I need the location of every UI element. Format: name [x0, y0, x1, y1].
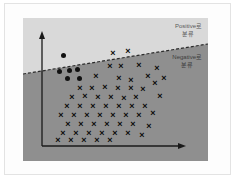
data-point-x: ×	[114, 84, 123, 93]
negative-label-line1: Negative로	[172, 54, 202, 60]
data-point-x: ×	[54, 136, 63, 145]
data-point-x: ×	[92, 72, 101, 81]
data-point-x: ×	[151, 79, 160, 88]
data-point-x: ×	[63, 102, 72, 111]
data-point-x: ×	[149, 109, 158, 118]
scatter-plot-area: ××××××××××××××××××××××××××××××××××××××××…	[23, 18, 208, 161]
data-point-x: ×	[115, 74, 124, 83]
figure-card: ××××××××××××××××××××××××××××××××××××××××…	[4, 3, 231, 175]
data-point-x: ×	[115, 102, 124, 111]
data-point-circle	[77, 76, 82, 81]
positive-label-line1: Positive로	[175, 23, 202, 29]
data-point-circle	[75, 67, 80, 72]
data-point-x: ×	[145, 122, 154, 131]
data-point-x: ×	[138, 131, 147, 140]
data-point-x: ×	[109, 49, 118, 58]
data-point-x: ×	[109, 111, 118, 120]
data-point-x: ×	[117, 62, 126, 71]
data-point-x: ×	[124, 47, 133, 56]
data-point-circle	[57, 69, 62, 74]
data-point-x: ×	[76, 102, 85, 111]
data-point-x: ×	[106, 62, 115, 71]
data-point-x: ×	[67, 136, 76, 145]
data-point-x: ×	[89, 102, 98, 111]
positive-region-label: Positive로 분류	[175, 23, 202, 38]
negative-region-label: Negative로 분류	[172, 54, 202, 69]
data-point-x: ×	[135, 61, 144, 70]
data-point-circle	[67, 68, 72, 73]
data-point-x: ×	[80, 92, 89, 101]
data-point-x: ×	[124, 129, 133, 138]
data-point-x: ×	[95, 111, 104, 120]
data-point-circle	[61, 53, 66, 58]
data-point-x: ×	[57, 111, 66, 120]
data-point-x: ×	[102, 102, 111, 111]
data-point-x: ×	[106, 136, 115, 145]
data-point-x: ×	[153, 64, 162, 73]
data-point-x: ×	[82, 111, 91, 120]
data-point-x: ×	[156, 92, 165, 101]
data-point-x: ×	[70, 111, 79, 120]
data-point-circle	[65, 76, 70, 81]
data-markers-layer: ××××××××××××××××××××××××××××××××××××××××…	[23, 18, 208, 161]
positive-label-line2: 분류	[175, 31, 202, 39]
data-point-x: ×	[128, 102, 137, 111]
data-point-x: ×	[80, 136, 89, 145]
data-point-x: ×	[101, 83, 110, 92]
negative-label-line2: 분류	[172, 62, 202, 70]
data-point-x: ×	[93, 136, 102, 145]
data-point-x: ×	[135, 111, 144, 120]
data-point-x: ×	[122, 111, 131, 120]
data-point-x: ×	[160, 74, 169, 83]
